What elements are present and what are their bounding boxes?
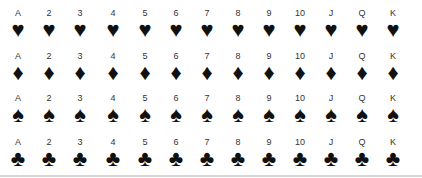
club-icon: ♣: [347, 147, 377, 171]
diamond-icon: ♦: [34, 61, 64, 85]
diamond-icon: ♦: [347, 61, 377, 85]
suit-row-spades: A♠2♠3♠4♠5♠6♠7♠8♠9♠10♠J♠Q♠K♠: [0, 93, 422, 137]
club-icon: ♣: [161, 147, 191, 171]
club-icon: ♣: [130, 147, 160, 171]
heart-icon: ♥: [34, 18, 64, 42]
spade-icon: ♠: [192, 103, 222, 127]
spade-icon: ♠: [378, 103, 408, 127]
club-icon: ♣: [378, 147, 408, 171]
heart-icon: ♥: [130, 18, 160, 42]
heart-icon: ♥: [378, 18, 408, 42]
heart-icon: ♥: [65, 18, 95, 42]
club-icon: ♣: [254, 147, 284, 171]
club-icon: ♣: [223, 147, 253, 171]
diamond-icon: ♦: [161, 61, 191, 85]
spade-icon: ♠: [98, 103, 128, 127]
diamond-icon: ♦: [98, 61, 128, 85]
club-icon: ♣: [65, 147, 95, 171]
club-icon: ♣: [316, 147, 346, 171]
heart-icon: ♥: [3, 18, 33, 42]
diamond-icon: ♦: [3, 61, 33, 85]
spade-icon: ♠: [65, 103, 95, 127]
divider: [0, 175, 422, 177]
heart-icon: ♥: [223, 18, 253, 42]
club-icon: ♣: [192, 147, 222, 171]
diamond-icon: ♦: [192, 61, 222, 85]
diamond-icon: ♦: [130, 61, 160, 85]
spade-icon: ♠: [285, 103, 315, 127]
diamond-icon: ♦: [378, 61, 408, 85]
club-icon: ♣: [98, 147, 128, 171]
spade-icon: ♠: [3, 103, 33, 127]
club-icon: ♣: [285, 147, 315, 171]
spade-icon: ♠: [223, 103, 253, 127]
diamond-icon: ♦: [223, 61, 253, 85]
suit-row-clubs: A♣2♣3♣4♣5♣6♣7♣8♣9♣10♣J♣Q♣K♣: [0, 137, 422, 178]
heart-icon: ♥: [254, 18, 284, 42]
diamond-icon: ♦: [316, 61, 346, 85]
heart-icon: ♥: [192, 18, 222, 42]
heart-icon: ♥: [98, 18, 128, 42]
heart-icon: ♥: [347, 18, 377, 42]
diamond-icon: ♦: [254, 61, 284, 85]
suit-row-hearts: A♥2♥3♥4♥5♥6♥7♥8♥9♥10♥J♥Q♥K♥: [0, 8, 422, 52]
spade-icon: ♠: [130, 103, 160, 127]
spade-icon: ♠: [254, 103, 284, 127]
spade-icon: ♠: [161, 103, 191, 127]
heart-icon: ♥: [316, 18, 346, 42]
club-icon: ♣: [3, 147, 33, 171]
club-icon: ♣: [34, 147, 64, 171]
heart-icon: ♥: [161, 18, 191, 42]
spade-icon: ♠: [347, 103, 377, 127]
spade-icon: ♠: [316, 103, 346, 127]
spade-icon: ♠: [34, 103, 64, 127]
suit-row-diamonds: A♦2♦3♦4♦5♦6♦7♦8♦9♦10♦J♦Q♦K♦: [0, 51, 422, 95]
diamond-icon: ♦: [285, 61, 315, 85]
heart-icon: ♥: [285, 18, 315, 42]
diamond-icon: ♦: [65, 61, 95, 85]
